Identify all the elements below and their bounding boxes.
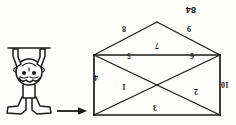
- page-caption: 84: [185, 5, 196, 15]
- edge-label-6: 6: [190, 51, 194, 59]
- edge-label-8: 8: [122, 24, 126, 32]
- edge-label-4: 4: [94, 73, 98, 81]
- edge-label-1: 1: [122, 82, 126, 90]
- arrow-container: [56, 105, 88, 117]
- edge-label-5: 5: [127, 51, 131, 59]
- scanned-page: 3 10 4 2 1 6 5 7 9 8: [0, 0, 236, 125]
- edge-label-9: 9: [187, 24, 191, 32]
- boy-figure-icon: [4, 45, 54, 119]
- edge-label-7: 7: [155, 41, 159, 49]
- edge-label-10: 10: [221, 80, 229, 88]
- handstand-boy-illustration: [4, 45, 54, 119]
- edge-label-2: 2: [194, 87, 198, 95]
- left-arrow-icon: [56, 105, 88, 117]
- edge-label-3: 3: [153, 103, 157, 111]
- upside-down-content: 3 10 4 2 1 6 5 7 9 8: [0, 0, 236, 125]
